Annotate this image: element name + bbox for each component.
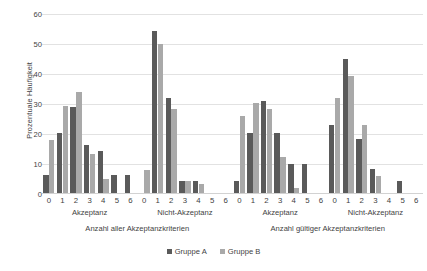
bar [125,175,130,195]
x-axis-tick-label: 5 [110,196,124,205]
x-axis-tick-label: 2 [260,196,274,205]
x-axis-tick-label: 4 [382,196,396,205]
bar [280,157,285,195]
bar [144,170,149,194]
x-axis-tick-label: 5 [205,196,219,205]
legend-item[interactable]: Gruppe A [167,247,207,256]
x-axis-tick-label: 2 [69,196,83,205]
bar [193,181,198,195]
bar [43,175,48,195]
bar [288,164,293,194]
bar [70,107,75,194]
bar [348,76,353,195]
legend-label: Gruppe A [175,247,207,256]
bar [356,139,361,195]
bar [57,133,62,195]
bar [376,176,381,194]
x-axis-tick-label: 6 [123,196,137,205]
bar [158,44,163,194]
bar [335,98,340,194]
bar [362,125,367,194]
panel-labels: Anzahl aller AkzeptanzkriterienAnzahl gü… [42,224,423,238]
group-labels: AkzeptanzNicht-AkzeptanzAkzeptanzNicht-A… [42,208,423,222]
x-axis-tick-label: 5 [300,196,314,205]
legend: Gruppe AGruppe B [0,247,427,256]
bar [171,109,176,195]
x-axis-tick-label: 3 [83,196,97,205]
x-axis-tick-label: 4 [191,196,205,205]
y-axis-tick-label: 40 [2,70,42,79]
x-axis-tick-label: 6 [314,196,328,205]
y-axis-tick-label: 50 [2,40,42,49]
x-axis-tick-label: 6 [219,196,233,205]
x-axis-tick-label: 3 [178,196,192,205]
bar [179,181,184,195]
bar [111,175,116,195]
bar [267,109,272,195]
x-axis-tick-label: 1 [341,196,355,205]
bar [166,98,171,194]
bar [234,181,239,195]
y-axis-tick-label: 20 [2,130,42,139]
x-axis-tick-label: 3 [368,196,382,205]
bar [90,154,95,195]
bar [370,169,375,195]
bar [397,181,402,195]
x-axis-tick-label: 2 [164,196,178,205]
bar [240,116,245,194]
bar [274,133,279,195]
x-axis-tick-label: 0 [232,196,246,205]
bar [103,179,108,194]
y-axis-tick-label: 10 [2,160,42,169]
x-axis-tick-label: 4 [287,196,301,205]
y-axis-tick-label: 60 [2,10,42,19]
x-axis-tick-label: 6 [409,196,423,205]
x-axis-line [42,193,423,194]
bar [152,31,157,195]
bar [343,59,348,194]
bar [302,164,307,194]
x-axis-tick-label: 5 [396,196,410,205]
panel-axis-label: Anzahl gültiger Akzeptanzkriterien [228,224,427,233]
bar [329,125,334,194]
y-axis-tick-label: 0 [2,190,42,199]
bar-chart: Prozentuale Häufigkeit 0102030405060 012… [0,0,427,271]
legend-label: Gruppe B [228,247,261,256]
bar [247,133,252,195]
legend-item[interactable]: Gruppe B [220,247,261,256]
panel-axis-label: Anzahl aller Akzeptanzkriterien [37,224,237,233]
x-axis-tick-label: 3 [273,196,287,205]
x-axis-tick-label: 0 [42,196,56,205]
bar [185,181,190,195]
x-axis-tick-label: 0 [137,196,151,205]
bars-layer [42,14,423,194]
plot-area [42,14,423,194]
bar [49,140,54,194]
bar [261,101,266,194]
bar [76,92,81,194]
legend-swatch-icon [220,249,225,254]
bar [84,145,89,195]
y-axis-tick-label: 30 [2,100,42,109]
x-axis-tick-label: 1 [55,196,69,205]
x-axis-tick-label: 2 [355,196,369,205]
bar [98,151,103,195]
group-axis-label: Nicht-Akzeptanz [315,208,427,217]
bar [253,103,258,195]
bar [63,106,68,195]
legend-swatch-icon [167,249,172,254]
x-axis-tick-label: 1 [246,196,260,205]
x-axis-tick-label: 1 [151,196,165,205]
x-axis-tick-label: 0 [328,196,342,205]
x-axis-tick-label: 4 [96,196,110,205]
